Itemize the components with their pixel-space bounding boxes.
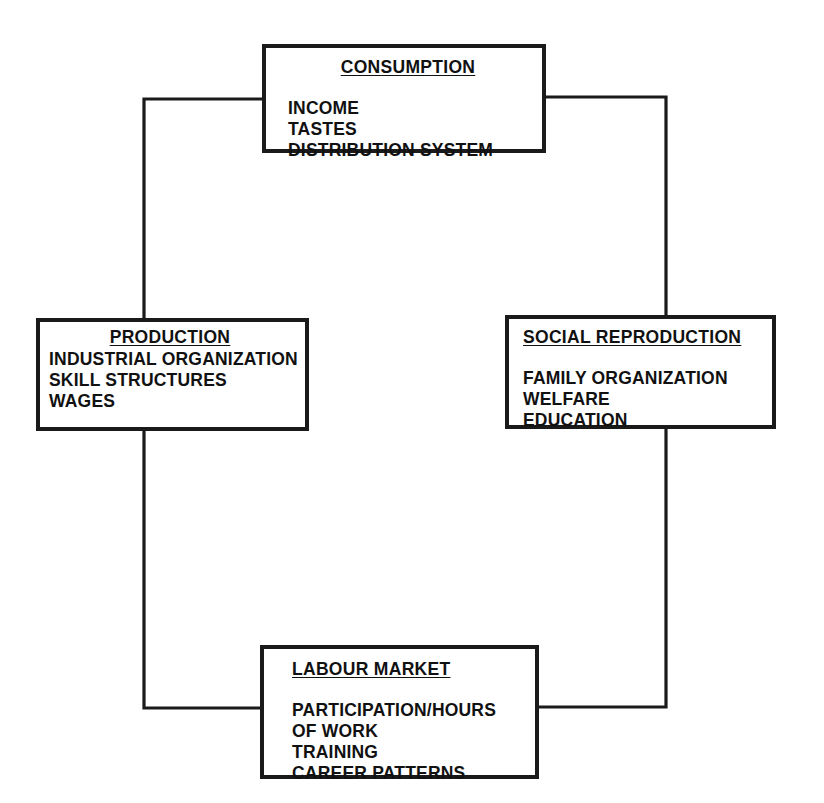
node-labour-market-items: PARTICIPATION/HOURS OF WORK TRAINING CAR… [292,700,521,784]
list-item: EDUCATION [523,410,758,431]
list-item: DISTRIBUTION SYSTEM [288,140,528,161]
node-social-reproduction-items: FAMILY ORGANIZATION WELFARE EDUCATION [523,368,758,431]
list-item: SKILL STRUCTURES [49,370,291,391]
node-consumption-content: CONSUMPTION INCOME TASTES DISTRIBUTION S… [266,48,542,149]
spacer [523,348,758,368]
node-consumption[interactable]: CONSUMPTION INCOME TASTES DISTRIBUTION S… [262,44,546,153]
node-labour-market-title: LABOUR MARKET [292,659,521,680]
node-production-content: PRODUCTION INDUSTRIAL ORGANIZATION SKILL… [40,322,305,427]
list-item: FAMILY ORGANIZATION [523,368,758,389]
node-consumption-items: INCOME TASTES DISTRIBUTION SYSTEM [288,98,528,161]
list-item: TASTES [288,119,528,140]
diagram-canvas: CONSUMPTION INCOME TASTES DISTRIBUTION S… [0,0,824,803]
node-social-reproduction[interactable]: SOCIAL REPRODUCTION FAMILY ORGANIZATION … [505,315,776,429]
list-item: OF WORK [292,721,521,742]
list-item: WAGES [49,391,291,412]
node-production-title: PRODUCTION [49,327,291,348]
node-social-reproduction-content: SOCIAL REPRODUCTION FAMILY ORGANIZATION … [509,319,772,425]
list-item: INDUSTRIAL ORGANIZATION [49,349,291,370]
list-item: WELFARE [523,389,758,410]
list-item: TRAINING [292,742,521,763]
node-production[interactable]: PRODUCTION INDUSTRIAL ORGANIZATION SKILL… [36,318,309,431]
node-consumption-title: CONSUMPTION [288,57,528,78]
list-item: CAREER PATTERNS [292,763,521,784]
node-labour-market[interactable]: LABOUR MARKET PARTICIPATION/HOURS OF WOR… [260,645,539,779]
list-item: PARTICIPATION/HOURS [292,700,521,721]
node-production-items: INDUSTRIAL ORGANIZATION SKILL STRUCTURES… [49,349,291,412]
node-labour-market-content: LABOUR MARKET PARTICIPATION/HOURS OF WOR… [264,649,535,775]
node-social-reproduction-title: SOCIAL REPRODUCTION [523,327,758,348]
spacer [288,78,528,98]
spacer [292,680,521,700]
list-item: INCOME [288,98,528,119]
